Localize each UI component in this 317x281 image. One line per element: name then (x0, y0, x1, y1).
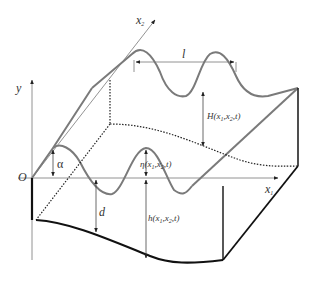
wave-diagram: y x2 x1 O l α d H(x1,x2,t) η(x1,x2,t) h(… (0, 0, 317, 281)
diagram-graphics (0, 0, 317, 281)
right-bottom-diagonal (223, 166, 298, 260)
front-bottom-curve (36, 220, 223, 263)
x2-axis-label: x2 (136, 14, 144, 27)
h-label: h(x1,x2,t) (148, 214, 180, 224)
eta-label: η(x1,x2,t) (140, 160, 171, 170)
wavelength-indicator (134, 60, 236, 72)
wavelength-label: l (182, 48, 185, 60)
alpha-label: α (57, 158, 63, 170)
right-top-edge (192, 88, 298, 186)
x1-axis-label: x1 (265, 183, 273, 196)
depth-label: d (99, 206, 105, 218)
origin-label: O (18, 171, 27, 183)
back-wave-surface (92, 50, 298, 96)
hidden-back-bottom (110, 124, 298, 166)
H-label: H(x1,x2,t) (207, 112, 241, 122)
y-axis-label: y (16, 82, 21, 94)
